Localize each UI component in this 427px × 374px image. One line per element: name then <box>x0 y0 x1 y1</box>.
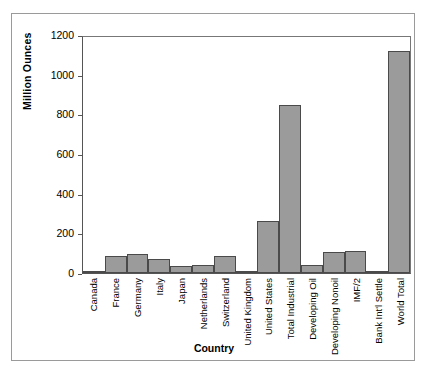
y-axis-tick-label: 0 <box>68 267 74 279</box>
bar-slot <box>170 37 192 273</box>
plot-area <box>82 36 411 274</box>
bar <box>388 51 410 273</box>
bar-slot <box>236 37 258 273</box>
bar-slot <box>83 37 105 273</box>
x-axis-label-slot: Netherlands <box>192 276 214 352</box>
x-axis-label-slot: Switzerland <box>214 276 236 352</box>
x-axis-tick-label: World Total <box>395 278 406 325</box>
bar-slot <box>257 37 279 273</box>
x-axis-title: Country <box>12 342 416 354</box>
bar <box>83 271 105 273</box>
bar <box>127 254 149 273</box>
x-axis-label-slot: Developing Oil <box>301 276 323 352</box>
x-axis-tick-label: Developing Oil <box>307 278 318 340</box>
bar-slot <box>345 37 367 273</box>
bar <box>170 266 192 273</box>
bar <box>301 265 323 273</box>
y-axis-ticks: 020040060080010001200 <box>12 14 82 274</box>
x-axis-label-slot: IMF/2 <box>345 276 367 352</box>
y-axis-tick-mark <box>78 274 82 275</box>
bar <box>345 251 367 273</box>
y-axis-tick-label: 1000 <box>51 69 74 81</box>
bar <box>323 252 345 273</box>
bar <box>214 256 236 273</box>
x-axis-category-labels: CanadaFranceGermanyItalyJapanNetherlands… <box>82 276 411 352</box>
x-axis-tick-label: Total Industrial <box>285 278 296 339</box>
bar-slot <box>366 37 388 273</box>
x-axis-tick-label: United Kingdom <box>241 278 252 346</box>
x-axis-label-slot: United Kingdom <box>236 276 258 352</box>
bar <box>192 265 214 273</box>
y-axis-tick-label: 800 <box>56 108 74 120</box>
bar-slot <box>127 37 149 273</box>
bar-slot <box>192 37 214 273</box>
x-axis-tick-label: Japan <box>175 278 186 304</box>
x-axis-label-slot: World Total <box>389 276 411 352</box>
x-axis-tick-label: Netherlands <box>197 278 208 329</box>
x-axis-tick-label: Canada <box>87 278 98 311</box>
x-axis-tick-label: Italy <box>153 278 164 295</box>
bar <box>236 271 258 273</box>
x-axis-tick-label: IMF/2 <box>351 278 362 302</box>
x-axis-label-slot: Italy <box>148 276 170 352</box>
bar-series <box>83 37 410 273</box>
x-axis-tick-label: Bank Int'l Settle <box>373 278 384 344</box>
x-axis-tick-label: France <box>109 278 120 308</box>
bar-slot <box>279 37 301 273</box>
bar-slot <box>301 37 323 273</box>
bar <box>366 271 388 273</box>
bar-slot <box>388 37 410 273</box>
x-axis-tick-label: Switzerland <box>219 278 230 327</box>
chart-frame: Million Ounces 020040060080010001200 Can… <box>11 13 415 361</box>
x-axis-label-slot: Japan <box>170 276 192 352</box>
x-axis-label-slot: United States <box>258 276 280 352</box>
x-axis-label-slot: Total Industrial <box>279 276 301 352</box>
x-axis-label-slot: Canada <box>82 276 104 352</box>
bar-slot <box>105 37 127 273</box>
y-axis-tick-label: 200 <box>56 227 74 239</box>
bar-slot <box>148 37 170 273</box>
bar-slot <box>214 37 236 273</box>
y-axis-tick-label: 1200 <box>51 29 74 41</box>
bar <box>148 259 170 273</box>
bar <box>279 105 301 273</box>
x-axis-label-slot: Germany <box>126 276 148 352</box>
x-axis-label-slot: France <box>104 276 126 352</box>
y-axis-tick-label: 600 <box>56 148 74 160</box>
x-axis-label-slot: Developing Nonoil <box>323 276 345 352</box>
x-axis-tick-label: Germany <box>131 278 142 317</box>
x-axis-tick-label: United States <box>263 278 274 335</box>
bar-slot <box>323 37 345 273</box>
bar <box>257 221 279 273</box>
x-axis-label-slot: Bank Int'l Settle <box>367 276 389 352</box>
y-axis-tick-label: 400 <box>56 188 74 200</box>
bar <box>105 256 127 273</box>
